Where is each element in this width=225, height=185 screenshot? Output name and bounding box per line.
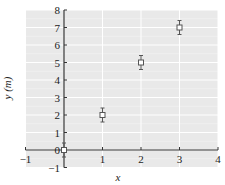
x-tick-label: 1	[100, 153, 106, 165]
x-tick-label: 3	[177, 153, 183, 165]
x-tick-label: 4	[215, 153, 221, 165]
y-tick-label: 3	[55, 92, 61, 104]
y-tick-label: 5	[55, 57, 61, 69]
square-marker	[177, 25, 182, 30]
x-tick-label: −1	[20, 153, 32, 165]
y-tick-label: 4	[55, 74, 61, 86]
scatter-chart: −11234−1012345678 x y (m)	[0, 0, 225, 185]
y-tick-label: 6	[55, 39, 61, 51]
y-tick-label: 2	[55, 109, 61, 121]
y-tick-label: 1	[55, 127, 61, 139]
y-tick-label: 8	[55, 4, 61, 16]
y-tick-label: 0	[55, 144, 61, 156]
y-tick-label: −1	[48, 162, 60, 174]
x-axis-label: x	[115, 171, 121, 183]
square-marker	[100, 113, 105, 118]
x-tick-label: 2	[138, 153, 144, 165]
square-marker	[139, 60, 144, 65]
y-axis-label: y (m)	[1, 76, 14, 100]
square-marker	[62, 148, 67, 153]
y-tick-label: 7	[55, 22, 61, 34]
